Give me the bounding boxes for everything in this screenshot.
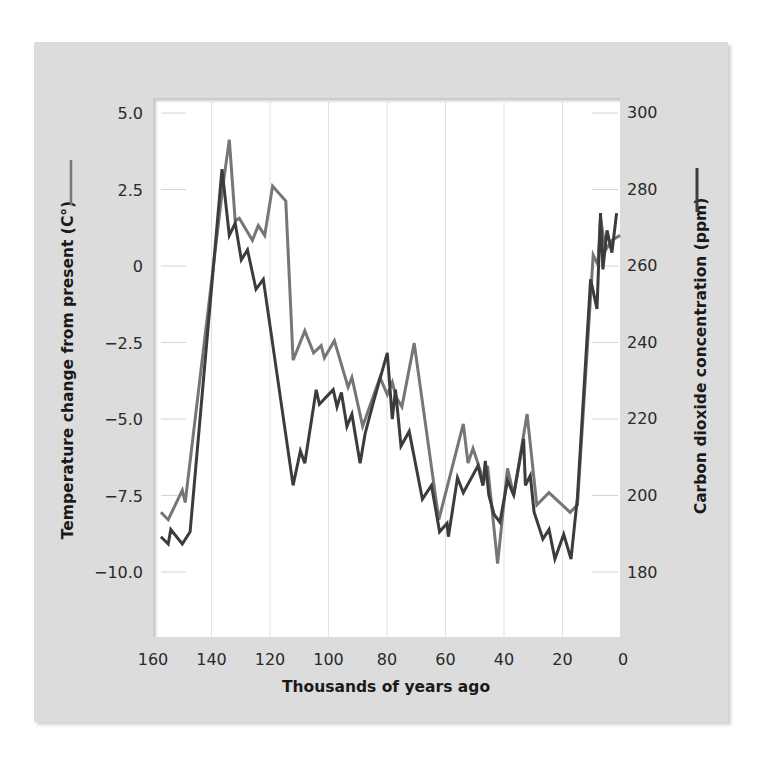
x-tick-label: 0 bbox=[618, 650, 628, 669]
left-axis-tick-labels: 5.02.50−2.5−5.0−7.5−10.0 bbox=[94, 104, 143, 582]
y-tick-label: −5.0 bbox=[104, 410, 143, 429]
y2-tick-label: 240 bbox=[627, 333, 658, 352]
x-axis-title: Thousands of years ago bbox=[282, 678, 490, 696]
y-tick-label: −10.0 bbox=[94, 563, 143, 582]
co2-line bbox=[161, 169, 617, 559]
y-tick-label: −7.5 bbox=[104, 487, 143, 506]
y-tick-label: 0 bbox=[133, 257, 143, 276]
y2-tick-label: 300 bbox=[627, 103, 658, 122]
x-tick-label: 100 bbox=[313, 650, 344, 669]
y-tick-label: 5.0 bbox=[118, 104, 143, 123]
y2-tick-label: 200 bbox=[627, 486, 658, 505]
right-axis-tick-labels: 300280260240220200180 bbox=[627, 103, 658, 582]
y-tick-label: −2.5 bbox=[104, 334, 143, 353]
x-tick-label: 60 bbox=[435, 650, 455, 669]
left-axis-title: Temperature change from present (C°) bbox=[59, 201, 77, 539]
right-axis-title: Carbon dioxide concentration (ppm) bbox=[692, 198, 710, 514]
x-tick-label: 120 bbox=[255, 650, 286, 669]
chart-svg: 160140120100806040200 5.02.50−2.5−5.0−7.… bbox=[0, 0, 769, 761]
x-tick-label: 20 bbox=[552, 650, 572, 669]
y2-tick-label: 180 bbox=[627, 563, 658, 582]
x-tick-label: 140 bbox=[196, 650, 227, 669]
y2-tick-label: 220 bbox=[627, 409, 658, 428]
data-series bbox=[161, 140, 620, 564]
y-tick-marks bbox=[161, 113, 618, 572]
x-tick-label: 40 bbox=[494, 650, 514, 669]
temperature-line bbox=[161, 140, 620, 564]
x-axis-tick-labels: 160140120100806040200 bbox=[138, 650, 628, 669]
y2-tick-label: 260 bbox=[627, 256, 658, 275]
y2-tick-label: 280 bbox=[627, 180, 658, 199]
x-tick-label: 80 bbox=[377, 650, 397, 669]
y-tick-label: 2.5 bbox=[118, 181, 143, 200]
x-tick-label: 160 bbox=[138, 650, 169, 669]
